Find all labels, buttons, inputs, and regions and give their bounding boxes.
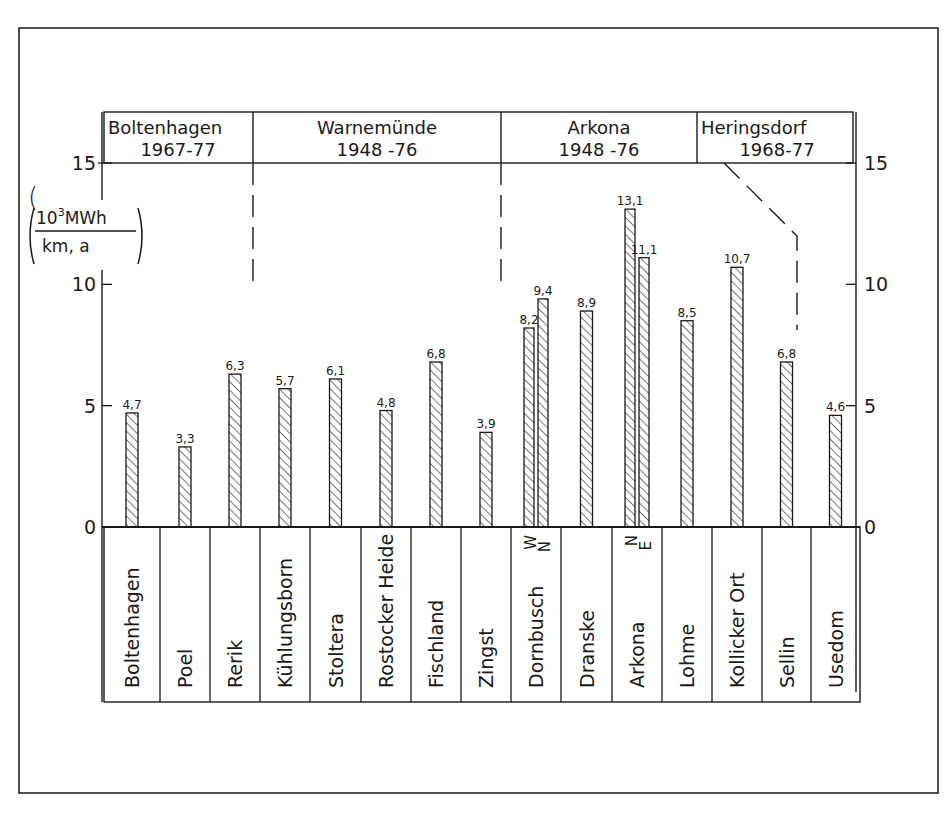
category-label-rerik: Rerik bbox=[224, 640, 246, 688]
bar-value-label: 9,4 bbox=[533, 284, 552, 298]
category-label-zingst: Zingst bbox=[475, 628, 497, 688]
category-name: Kühlungsborn bbox=[274, 558, 296, 688]
station-header-heringsdorf: Heringsdorf1968-77 bbox=[701, 117, 815, 160]
station-years: 1968-77 bbox=[739, 139, 814, 160]
left-tick-label: 15 bbox=[72, 152, 96, 174]
svg-text:km, a: km, a bbox=[42, 236, 90, 256]
station-header-arkona: Arkona1948 -76 bbox=[559, 117, 640, 160]
station-name: Heringsdorf bbox=[701, 117, 807, 138]
right-tick-label: 5 bbox=[864, 395, 876, 417]
station-years: 1948 -76 bbox=[337, 139, 418, 160]
category-label-dranske: Dranske bbox=[576, 610, 598, 688]
figure-panel: 005510101515(103MWhkm, a Boltenhagen1967… bbox=[0, 0, 952, 818]
station-header-boltenhagen: Boltenhagen1967-77 bbox=[108, 117, 222, 160]
sub-bar-label: N bbox=[536, 541, 554, 552]
category-name: Rostocker Heide bbox=[375, 534, 397, 688]
category-name: Dranske bbox=[576, 610, 598, 688]
category-name: Arkona bbox=[626, 622, 648, 688]
right-tick-label: 10 bbox=[864, 273, 888, 295]
station-years: 1948 -76 bbox=[559, 139, 640, 160]
station-years: 1967-77 bbox=[140, 139, 215, 160]
category-name: Usedom bbox=[825, 610, 847, 688]
bar-value-label: 4,8 bbox=[376, 396, 395, 410]
bar-kollicker-ort: 10,7 bbox=[724, 252, 751, 527]
bar-value-label: 4,7 bbox=[122, 398, 141, 412]
station-header-warnemünde: Warnemünde1948 -76 bbox=[317, 117, 437, 160]
bar-boltenhagen: 4,7 bbox=[122, 398, 141, 527]
category-label-usedom: Usedom bbox=[825, 610, 847, 688]
bar-dranske: 8,9 bbox=[577, 296, 596, 527]
bar-value-label: 8,2 bbox=[519, 313, 538, 327]
category-label-lohme: Lohme bbox=[676, 624, 698, 688]
left-tick-label: 0 bbox=[84, 516, 96, 538]
category-name: Rerik bbox=[224, 640, 246, 688]
bar-value-label: 6,8 bbox=[777, 347, 796, 361]
category-name: Zingst bbox=[475, 628, 497, 688]
category-label-poel: Poel bbox=[174, 649, 196, 688]
category-label-sellin: Sellin bbox=[776, 636, 798, 688]
svg-text:103MWh: 103MWh bbox=[36, 206, 107, 228]
bar-value-label: 6,3 bbox=[225, 359, 244, 373]
category-name: Boltenhagen bbox=[121, 567, 143, 688]
bar-fischland: 6,8 bbox=[426, 347, 445, 527]
station-name: Arkona bbox=[568, 117, 631, 138]
bar-sellin: 6,8 bbox=[777, 347, 796, 527]
bar-lohme: 8,5 bbox=[677, 306, 696, 527]
bar-value-label: 8,9 bbox=[577, 296, 596, 310]
bar-kühlungsborn: 5,7 bbox=[275, 374, 294, 527]
y-axis-unit-label: (103MWhkm, a bbox=[20, 182, 150, 270]
bar-value-label: 3,3 bbox=[175, 432, 194, 446]
bar-value-label: 8,5 bbox=[677, 306, 696, 320]
bar-rerik: 6,3 bbox=[225, 359, 244, 527]
category-label-stoltera: Stoltera bbox=[325, 613, 347, 688]
category-name: Sellin bbox=[776, 636, 798, 688]
left-tick-label: 10 bbox=[72, 273, 96, 295]
bar-chart: 005510101515(103MWhkm, a Boltenhagen1967… bbox=[0, 0, 952, 818]
category-name: Kollicker Ort bbox=[726, 572, 748, 688]
category-label-kollicker-ort: Kollicker Ort bbox=[726, 572, 748, 688]
category-label-fischland: Fischland bbox=[425, 600, 447, 688]
bar-dornbusch-w: 8,2 bbox=[519, 313, 538, 527]
station-name: Warnemünde bbox=[317, 117, 437, 138]
station-name: Boltenhagen bbox=[108, 117, 222, 138]
category-label-rostocker-heide: Rostocker Heide bbox=[375, 534, 397, 688]
category-label-arkona: ArkonaNE bbox=[623, 535, 655, 688]
bar-value-label: 6,8 bbox=[426, 347, 445, 361]
bar-value-label: 6,1 bbox=[326, 364, 345, 378]
bar-value-label: 4,6 bbox=[826, 400, 845, 414]
left-tick-label: 5 bbox=[84, 395, 96, 417]
bar-value-label: 13,1 bbox=[617, 194, 644, 208]
right-tick-label: 15 bbox=[864, 152, 888, 174]
category-label-dornbusch: DornbuschWN bbox=[522, 535, 554, 688]
category-name: Lohme bbox=[676, 624, 698, 688]
category-name: Fischland bbox=[425, 600, 447, 688]
bar-value-label: 11,1 bbox=[631, 243, 658, 257]
category-name: Poel bbox=[174, 649, 196, 688]
bar-zingst: 3,9 bbox=[476, 417, 495, 527]
bar-value-label: 10,7 bbox=[724, 252, 751, 266]
bar-value-label: 5,7 bbox=[275, 374, 294, 388]
right-tick-label: 0 bbox=[864, 516, 876, 538]
sub-bar-label: E bbox=[637, 541, 655, 550]
category-label-boltenhagen: Boltenhagen bbox=[121, 567, 143, 688]
bar-value-label: 3,9 bbox=[476, 417, 495, 431]
bar-rostocker-heide: 4,8 bbox=[376, 396, 395, 527]
category-name: Dornbusch bbox=[525, 586, 547, 688]
bar-poel: 3,3 bbox=[175, 432, 194, 527]
category-name: Stoltera bbox=[325, 613, 347, 688]
category-label-kühlungsborn: Kühlungsborn bbox=[274, 558, 296, 688]
bar-usedom: 4,6 bbox=[826, 400, 845, 527]
bar-stoltera: 6,1 bbox=[326, 364, 345, 527]
